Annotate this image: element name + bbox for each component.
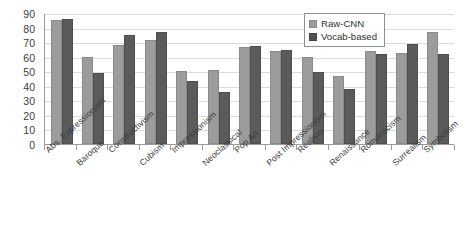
y-axis-tick-label: 20 (23, 111, 35, 122)
y-axis-tick-label: 80 (23, 23, 35, 34)
bar-group (234, 14, 265, 144)
y-axis-tick-label: 90 (23, 9, 35, 20)
bar-raw-cnn (239, 47, 250, 144)
legend-swatch-icon (309, 20, 317, 28)
bar-raw-cnn (270, 51, 281, 144)
y-axis-tick-label: 70 (23, 38, 35, 49)
y-axis-tick-label: 50 (23, 67, 35, 78)
bar-raw-cnn (51, 20, 62, 144)
legend-item-vocab-based: Vocab-based (309, 30, 377, 43)
y-axis-tick-label: 30 (23, 96, 35, 107)
bar-raw-cnn (145, 40, 156, 144)
bar-raw-cnn (396, 53, 407, 144)
x-axis-labels: Abs. ExpressionismBaroqueConstructivismC… (44, 148, 454, 236)
bar-vocab-based (281, 50, 292, 144)
bar-raw-cnn (333, 76, 344, 144)
legend-item-label: Vocab-based (321, 32, 377, 42)
bar-raw-cnn (113, 45, 124, 144)
bar-raw-cnn (208, 70, 219, 144)
bar-vocab-based (156, 32, 167, 144)
bar-chart: 9080706050403020100 Abs. ExpressionismBa… (0, 0, 471, 236)
bar-raw-cnn (82, 57, 93, 144)
x-axis-tickmark (454, 145, 455, 150)
legend-item-label: Raw-CNN (321, 19, 364, 29)
y-axis: 9080706050403020100 (0, 14, 40, 146)
y-axis-tick-label: 0 (29, 140, 35, 151)
bar-vocab-based (407, 44, 418, 144)
bar-group (266, 14, 297, 144)
y-axis-tick-label: 10 (23, 125, 35, 136)
chart-legend: Raw-CNN Vocab-based (304, 13, 385, 47)
legend-swatch-icon (309, 33, 317, 41)
y-axis-tick-label: 40 (23, 82, 35, 93)
legend-item-raw-cnn: Raw-CNN (309, 17, 377, 30)
y-axis-tick-label: 60 (23, 52, 35, 63)
bar-raw-cnn (427, 32, 438, 144)
